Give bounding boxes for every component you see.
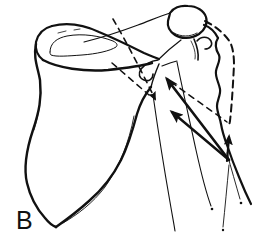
- force-vector-vertical: [227, 137, 229, 161]
- spine-crest-line: [84, 13, 170, 42]
- scapula-lateral-border: [56, 87, 151, 227]
- humerus-medial-end-dot: [211, 208, 214, 211]
- bone-outline-layer: [25, 6, 251, 231]
- spine-hatch-tick-1: [58, 31, 66, 33]
- glenoid-rim-line: [159, 40, 181, 59]
- shaft-axis-lower-line: [223, 165, 229, 227]
- spine-top-edge: [52, 24, 159, 59]
- scapula-medial-border: [25, 44, 56, 227]
- figure-panel: B: [0, 0, 253, 241]
- spine-left-end: [36, 26, 52, 60]
- triceps-origin-line: [153, 95, 175, 231]
- scapula-force-diagram: B: [0, 0, 253, 241]
- humeral-head-bottom: [162, 61, 177, 66]
- spine-hatch-tick-2: [74, 29, 80, 30]
- greater-tuberosity-curl: [197, 37, 212, 49]
- humerus-medial-edge: [177, 62, 211, 206]
- figure-label: B: [16, 206, 33, 234]
- shaft-axis-end-dot: [222, 229, 224, 231]
- glenoid-hook: [139, 60, 158, 81]
- scapula-lateral-inner-line: [63, 116, 134, 223]
- shaft-inner-end-dot: [240, 202, 243, 205]
- humeral-head-left-inner: [191, 41, 195, 59]
- supraspinous-fossa-teardrop: [50, 35, 117, 56]
- dashed-reference-line-upper: [113, 19, 155, 99]
